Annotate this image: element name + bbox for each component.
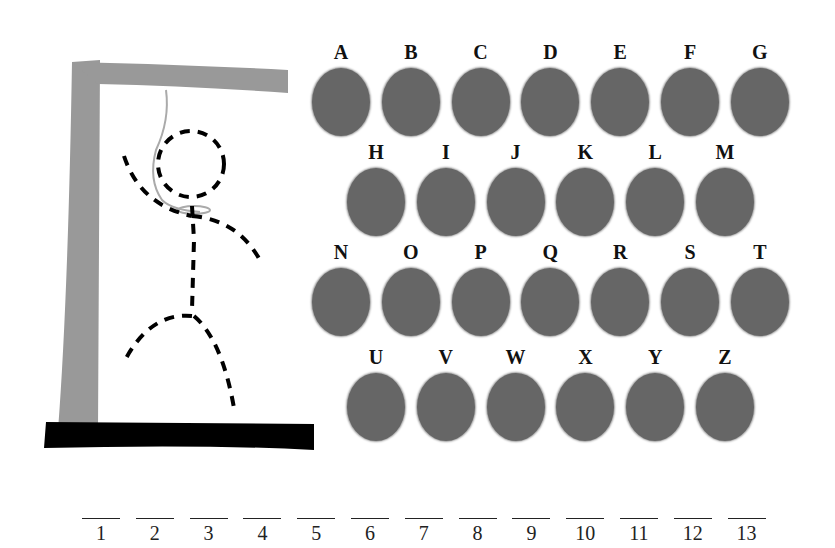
slot-number: 2 — [135, 523, 175, 543]
letter-button-l[interactable] — [626, 168, 684, 236]
slot-number: 12 — [673, 523, 713, 543]
letter-button-v[interactable] — [417, 373, 475, 441]
letter-button-x[interactable] — [556, 373, 614, 441]
letter-button-u[interactable] — [347, 373, 405, 441]
letter-button-q[interactable] — [521, 268, 579, 336]
letter-label-s: S — [670, 242, 710, 262]
letter-label-v: V — [426, 347, 466, 367]
letter-slot: 13 — [727, 518, 767, 543]
letter-label-z: Z — [705, 347, 745, 367]
gallows-base — [44, 422, 314, 450]
letter-slot: 6 — [350, 518, 390, 543]
letter-slot: 3 — [189, 518, 229, 543]
letter-button-p[interactable] — [452, 268, 510, 336]
slot-number: 10 — [565, 523, 605, 543]
slot-blank-line — [243, 518, 281, 519]
letter-label-j: J — [496, 142, 536, 162]
letter-slot: 4 — [242, 518, 282, 543]
hangman-gallows — [0, 0, 330, 460]
letter-button-j[interactable] — [487, 168, 545, 236]
letter-label-q: Q — [530, 242, 570, 262]
slot-blank-line — [728, 518, 766, 519]
slot-number: 8 — [458, 523, 498, 543]
slot-blank-line — [620, 518, 658, 519]
letter-label-l: L — [635, 142, 675, 162]
slot-number: 7 — [404, 523, 444, 543]
letter-slot: 12 — [673, 518, 713, 543]
letter-button-i[interactable] — [417, 168, 475, 236]
gallows-beam — [72, 62, 288, 93]
figure-left-leg — [124, 316, 192, 362]
letter-label-k: K — [565, 142, 605, 162]
letter-label-g: G — [740, 42, 780, 62]
letter-button-o[interactable] — [382, 268, 440, 336]
figure-head — [158, 131, 224, 197]
letter-button-c[interactable] — [452, 68, 510, 136]
letter-button-b[interactable] — [382, 68, 440, 136]
letter-label-y: Y — [635, 347, 675, 367]
slot-number: 11 — [619, 523, 659, 543]
slot-number: 5 — [296, 523, 336, 543]
letter-button-z[interactable] — [696, 373, 754, 441]
letter-button-e[interactable] — [591, 68, 649, 136]
slot-number: 9 — [511, 523, 551, 543]
letter-label-u: U — [356, 347, 396, 367]
letter-button-y[interactable] — [626, 373, 684, 441]
letter-label-i: I — [426, 142, 466, 162]
letter-slot: 8 — [458, 518, 498, 543]
slot-blank-line — [405, 518, 443, 519]
letter-slot: 11 — [619, 518, 659, 543]
letter-label-e: E — [600, 42, 640, 62]
slot-number: 1 — [81, 523, 121, 543]
figure-right-arm — [192, 216, 262, 264]
letter-button-a[interactable] — [312, 68, 370, 136]
slot-blank-line — [459, 518, 497, 519]
slot-blank-line — [297, 518, 335, 519]
letter-label-w: W — [496, 347, 536, 367]
gallows-post — [58, 60, 100, 430]
letter-slot: 10 — [565, 518, 605, 543]
letter-label-m: M — [705, 142, 745, 162]
slot-number: 4 — [242, 523, 282, 543]
letter-label-n: N — [321, 242, 361, 262]
slot-number: 3 — [189, 523, 229, 543]
figure-body — [192, 206, 194, 310]
letter-label-x: X — [565, 347, 605, 367]
letter-button-r[interactable] — [591, 268, 649, 336]
slot-blank-line — [82, 518, 120, 519]
slot-blank-line — [566, 518, 604, 519]
letter-label-a: A — [321, 42, 361, 62]
letter-button-f[interactable] — [661, 68, 719, 136]
letter-button-t[interactable] — [731, 268, 789, 336]
letter-button-n[interactable] — [312, 268, 370, 336]
letter-label-h: H — [356, 142, 396, 162]
slot-number: 6 — [350, 523, 390, 543]
letter-button-m[interactable] — [696, 168, 754, 236]
letter-slot: 5 — [296, 518, 336, 543]
letter-label-p: P — [461, 242, 501, 262]
slot-blank-line — [351, 518, 389, 519]
letter-slot: 7 — [404, 518, 444, 543]
slot-blank-line — [136, 518, 174, 519]
letter-label-f: F — [670, 42, 710, 62]
letter-label-d: D — [530, 42, 570, 62]
letter-label-r: R — [600, 242, 640, 262]
letter-label-c: C — [461, 42, 501, 62]
slot-blank-line — [512, 518, 550, 519]
letter-button-h[interactable] — [347, 168, 405, 236]
letter-label-o: O — [391, 242, 431, 262]
slot-blank-line — [190, 518, 228, 519]
letter-slot: 1 — [81, 518, 121, 543]
slot-number: 13 — [727, 523, 767, 543]
letter-slot: 2 — [135, 518, 175, 543]
letter-button-d[interactable] — [521, 68, 579, 136]
letter-button-s[interactable] — [661, 268, 719, 336]
letter-button-w[interactable] — [487, 373, 545, 441]
letter-button-k[interactable] — [556, 168, 614, 236]
letter-slot: 9 — [511, 518, 551, 543]
letter-label-t: T — [740, 242, 780, 262]
slot-blank-line — [674, 518, 712, 519]
letter-button-g[interactable] — [731, 68, 789, 136]
letter-label-b: B — [391, 42, 431, 62]
figure-right-leg — [194, 316, 234, 408]
